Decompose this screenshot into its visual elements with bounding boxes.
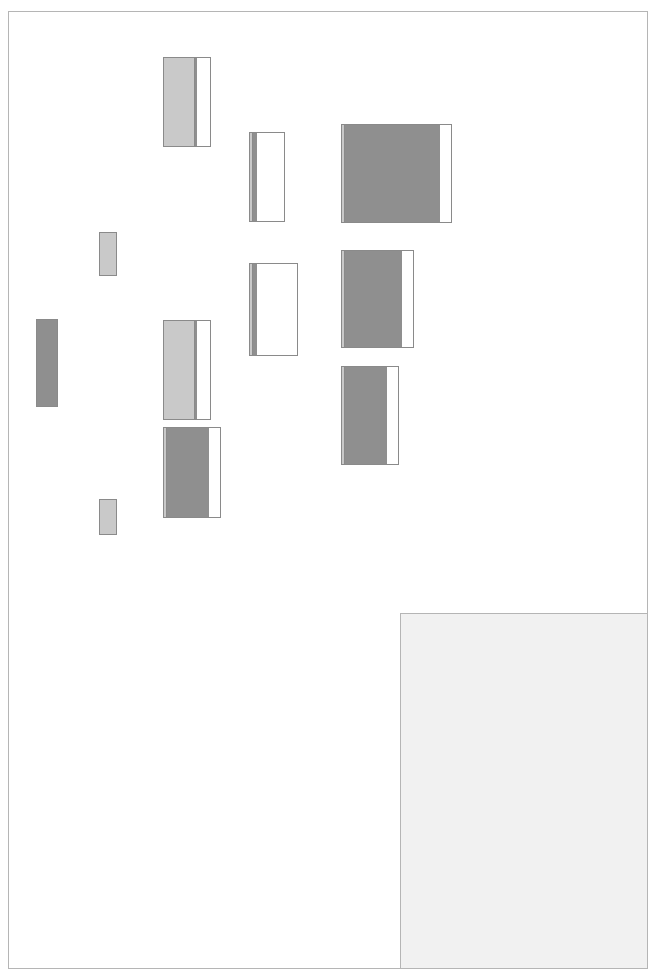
gp-coag-pos-box <box>249 132 285 222</box>
gp-rods-label <box>99 499 117 535</box>
gp-clusters-box <box>163 57 211 147</box>
gp-beta-box <box>341 124 452 223</box>
gp-rods-aerobic-box <box>163 427 221 518</box>
gp-cocci-label <box>99 232 117 276</box>
gp-alpha-box <box>341 250 414 348</box>
gp-non-hemolytic-box <box>341 366 399 465</box>
gp-coag-neg-box <box>249 263 298 356</box>
connector-arrows <box>0 0 657 979</box>
diagram-stage <box>0 0 657 979</box>
gp-chains-box <box>163 320 211 420</box>
gram-positive-title <box>36 319 58 407</box>
